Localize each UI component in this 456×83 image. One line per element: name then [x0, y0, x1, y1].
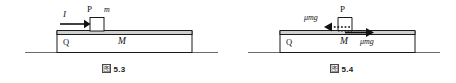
- figure-5-4: μmg P Q M μmg 图5.4: [228, 0, 456, 83]
- figure-cjk-glyph: 图: [102, 64, 111, 73]
- figure-5-3: I P m Q M 图5.3: [0, 0, 228, 83]
- figure-5-3-drawing: [0, 0, 228, 66]
- block-p-outline: [338, 18, 352, 32]
- figure-5-4-caption: 图5.4: [228, 64, 456, 75]
- label-block-p: P: [87, 5, 92, 14]
- label-surface-q: Q: [63, 38, 69, 47]
- figure-number: 5.4: [341, 65, 353, 74]
- slab-top-surface: [57, 31, 192, 35]
- figure-cjk-glyph: 图: [330, 64, 339, 73]
- label-friction-left: μmg: [304, 14, 318, 22]
- label-mass-M: M: [118, 37, 126, 47]
- label-surface-q: Q: [286, 38, 292, 47]
- figure-5-3-caption: 图5.3: [0, 64, 228, 75]
- impulse-arrow: [60, 20, 91, 28]
- label-mass-m: m: [104, 6, 110, 14]
- label-mass-M: M: [340, 37, 348, 47]
- block-p: [90, 18, 104, 32]
- label-friction-right: μmg: [360, 38, 374, 46]
- label-impulse: I: [63, 10, 66, 19]
- figure-pair-container: I P m Q M 图5.3: [0, 0, 456, 83]
- label-block-p: P: [340, 5, 345, 14]
- figure-number: 5.3: [113, 65, 125, 74]
